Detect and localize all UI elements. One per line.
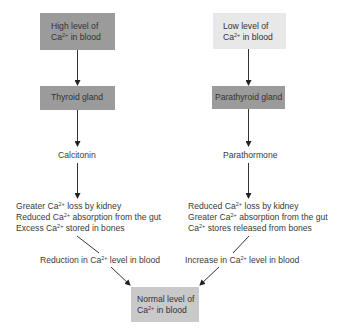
reduction-label: Reduction in Ca2+ level in blood — [40, 255, 160, 266]
parathyroid-gland-label: Parathyroid gland — [215, 92, 282, 103]
normal-calcium-line1: Normal level of — [137, 294, 194, 305]
normal-calcium-line2: Ca2+ in blood — [137, 305, 194, 316]
right-effects: Reduced Ca2+ loss by kidney Greater Ca2+… — [188, 201, 328, 234]
parathormone-label: Parathormone — [223, 150, 277, 161]
arrow-reduction-to-normal — [111, 267, 130, 285]
thyroid-gland-box: Thyroid gland — [40, 86, 115, 110]
increase-label: Increase in Ca2+ level in blood — [185, 255, 299, 266]
right-effect-3: Ca2+ stores released from bones — [188, 223, 328, 234]
low-calcium-line2: Ca2+ in blood — [223, 32, 273, 43]
arrow-increase-to-normal — [200, 267, 219, 285]
normal-calcium-box: Normal level of Ca2+ in blood — [131, 287, 199, 322]
high-calcium-line1: High level of — [51, 21, 101, 32]
left-effect-1: Greater Ca2+ loss by kidney — [16, 201, 161, 212]
high-calcium-line2: Ca2+ in blood — [51, 32, 101, 43]
parathyroid-gland-box: Parathyroid gland — [212, 86, 285, 109]
calcitonin-label: Calcitonin — [58, 150, 96, 161]
left-effects: Greater Ca2+ loss by kidney Reduced Ca2+… — [16, 201, 161, 234]
right-effect-1: Reduced Ca2+ loss by kidney — [188, 201, 328, 212]
line-left-effects-to-reduction — [77, 236, 99, 253]
thyroid-gland-label: Thyroid gland — [51, 92, 103, 103]
left-effect-3: Excess Ca2+ stored in bones — [16, 223, 161, 234]
low-calcium-box: Low level of Ca2+ in blood — [213, 13, 286, 49]
high-calcium-box: High level of Ca2+ in blood — [40, 13, 115, 50]
right-effect-2: Greater Ca2+ absorption from the gut — [188, 212, 328, 223]
left-effect-2: Reduced Ca2+ absorption from the gut — [16, 212, 161, 223]
connector-layer — [0, 0, 342, 336]
line-right-effects-to-increase — [233, 236, 249, 253]
low-calcium-line1: Low level of — [223, 21, 273, 32]
